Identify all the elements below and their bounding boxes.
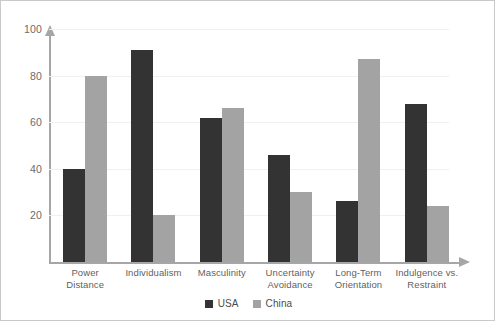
bar-group [51,22,119,263]
x-axis-category-label: Individualism [119,267,187,290]
bar-group [119,22,187,263]
legend-item[interactable]: USA [205,298,239,309]
plot-area: 10080604020 [49,23,479,263]
bar-group [324,22,392,263]
bar-usa[interactable] [405,104,427,262]
bar-usa[interactable] [131,50,153,262]
legend-label: China [266,298,293,309]
bar-china[interactable] [427,206,449,262]
bar-usa[interactable] [63,169,85,262]
bar-china[interactable] [358,59,380,262]
legend-swatch-icon [205,300,213,308]
x-axis-category-label: Power Distance [51,267,119,290]
bar-china[interactable] [290,192,312,262]
legend-item[interactable]: China [253,298,293,309]
y-axis-tick-label: 40 [30,163,42,175]
legend-label: USA [218,298,239,309]
bar-group [256,22,324,263]
x-axis-category-label: Masculinity [188,267,256,290]
bar-chart: 10080604020 Power DistanceIndividualismM… [0,0,495,321]
x-axis-category-label: Indulgence vs. Restraint [393,267,461,290]
bar-china[interactable] [222,108,244,262]
legend-swatch-icon [253,300,261,308]
x-axis-category-label: Uncertainty Avoidance [256,267,324,290]
chart-legend: USAChina [1,298,495,309]
x-axis-category-label: Long-Term Orientation [324,267,392,290]
bar-usa[interactable] [268,155,290,262]
bar-china[interactable] [153,215,175,262]
bar-usa[interactable] [200,118,222,262]
y-axis-tick-label: 80 [30,70,42,82]
bar-usa[interactable] [336,201,358,262]
bar-group [393,22,461,263]
bar-china[interactable] [85,76,107,262]
y-axis-tick-label: 100 [24,23,42,35]
category-axis: Power DistanceIndividualismMasculinityUn… [51,267,461,290]
y-axis-tick-label: 60 [30,116,42,128]
bar-group [188,22,256,263]
bars-layer [51,23,461,263]
y-axis-tick-label: 20 [30,209,42,221]
